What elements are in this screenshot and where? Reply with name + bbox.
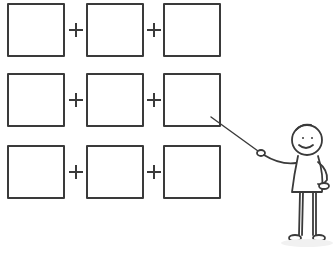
stick-figure-presenter-icon	[0, 0, 336, 255]
